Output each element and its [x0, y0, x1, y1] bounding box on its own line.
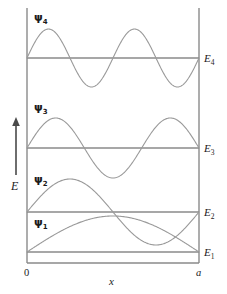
- x-tick-label-origin: 0: [24, 268, 29, 279]
- wavefunction-curves: [27, 29, 199, 252]
- wavefunction-curve-1: [27, 216, 199, 252]
- wavefunction-label-4: ψ4: [34, 12, 48, 26]
- energy-level-label-2: E2: [204, 207, 214, 221]
- plot-canvas: [0, 0, 227, 294]
- energy-level-label-1: E1: [204, 247, 214, 261]
- energy-level-label-3: E3: [204, 143, 214, 157]
- particle-in-a-box-figure: ψ4 ψ3 ψ2 ψ1 E4 E3 E2 E1 E 0 a x: [0, 0, 227, 294]
- energy-axis-arrow: [12, 117, 20, 175]
- x-tick-label-a: a: [196, 268, 201, 279]
- energy-axis-label: E: [11, 180, 18, 192]
- wavefunction-label-1: ψ1: [34, 217, 48, 231]
- energy-level-label-4: E4: [204, 53, 214, 67]
- wavefunction-label-3: ψ3: [34, 102, 48, 116]
- x-axis-label: x: [109, 276, 114, 287]
- wavefunction-label-2: ψ2: [34, 174, 48, 188]
